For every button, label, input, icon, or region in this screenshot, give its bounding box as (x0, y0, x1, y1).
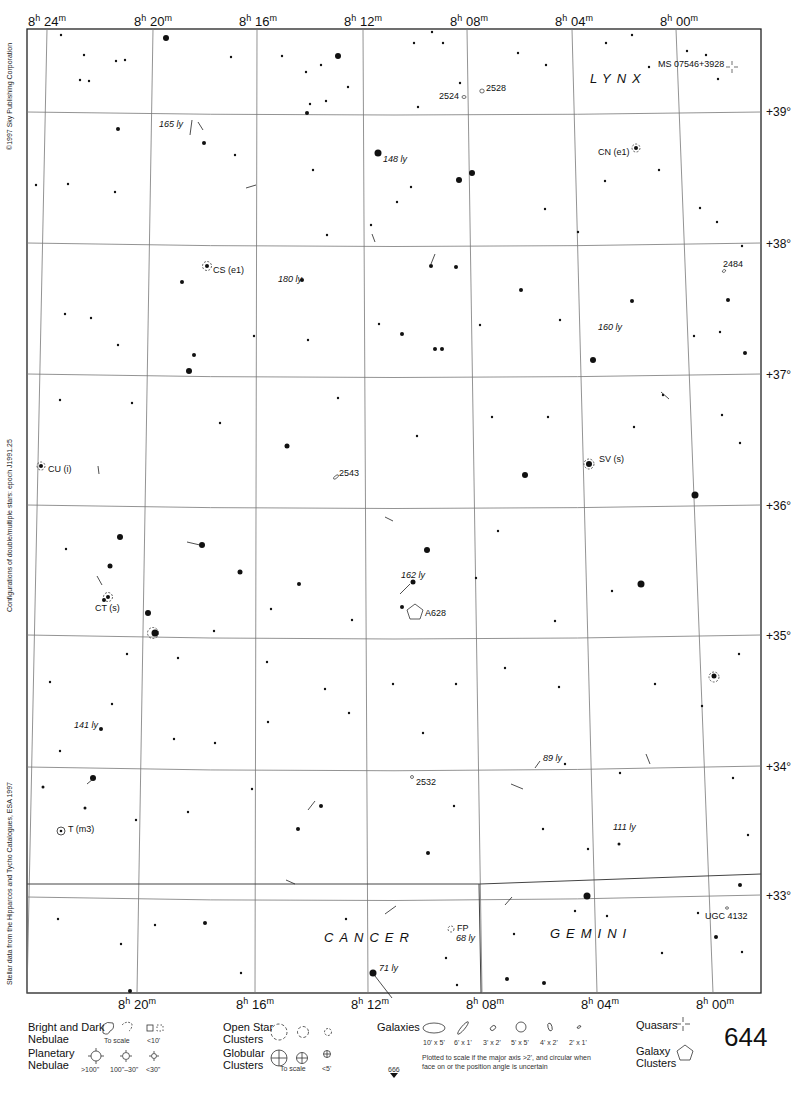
legend-galaxy-size: 6' x 1' (454, 1039, 472, 1046)
legend-p2: 100"–30" (110, 1066, 138, 1073)
legend-galaxies: Galaxies (377, 1021, 420, 1033)
ra-gridlines (27, 29, 713, 993)
constellation-gemini: GEMINI (550, 926, 632, 941)
galaxies (333, 89, 729, 909)
legend-globular-clusters: Globular Clusters (223, 1047, 265, 1071)
label-a628: A628 (425, 608, 446, 618)
legend-open-clusters: Open Star Clusters (223, 1021, 273, 1045)
legend-galaxy-note: Plotted to scale if the major axis >2', … (422, 1053, 602, 1071)
galaxy-ugc4132 (726, 907, 729, 909)
label-fp: FP (457, 923, 469, 933)
variable-star-rings (37, 144, 719, 932)
label-cu: CU (i) (48, 464, 72, 474)
galaxy-2484 (722, 269, 726, 273)
legend-planetary: Planetary Nebulae (28, 1047, 74, 1071)
legend-lt10: <10' (147, 1037, 160, 1044)
label-ms07546: MS 07546+3928 (658, 59, 724, 69)
label-ugc4132: UGC 4132 (705, 911, 748, 921)
galaxy-2524 (462, 96, 466, 99)
label-165ly: 165 ly (159, 119, 184, 129)
label-162ly: 162 ly (401, 570, 426, 580)
label-89ly: 89 ly (543, 753, 563, 763)
next-page-link[interactable]: 666 (388, 1066, 400, 1073)
map-frame (27, 29, 761, 993)
legend-nebulae: Bright and Dark Nebulae (28, 1021, 104, 1045)
legend-galaxy-size: 3' x 2' (483, 1039, 501, 1046)
label-71ly: 71 ly (379, 963, 399, 973)
label-t: T (m3) (68, 824, 94, 834)
label-cs: CS (e1) (213, 265, 244, 275)
stars (42, 35, 748, 993)
label-2484: 2484 (723, 259, 743, 269)
bright-nebula-icon (103, 1022, 114, 1034)
label-141ly: 141 ly (74, 720, 99, 730)
page-number: 644 (724, 1022, 767, 1053)
legend-glob-scale: To scale (280, 1065, 306, 1072)
label-sv: SV (s) (599, 454, 624, 464)
constellation-cancer: CANCER (324, 930, 415, 945)
legend-lt5: <5' (322, 1065, 331, 1072)
label-160ly: 160 ly (598, 322, 623, 332)
next-page-arrow-icon (390, 1073, 398, 1078)
galaxy-2532 (411, 776, 414, 779)
label-cn: CN (e1) (598, 147, 630, 157)
label-2543: 2543 (339, 468, 359, 478)
legend-galaxy-size: 10' x 5' (423, 1039, 445, 1046)
star-map[interactable]: LYNX CANCER GEMINI MS 07546+3928 2524 25… (0, 0, 810, 1093)
label-2524: 2524 (439, 91, 459, 101)
legend-galaxy-clusters: Galaxy Clusters (636, 1045, 676, 1069)
label-148ly: 148 ly (383, 154, 408, 164)
quasar-ms07546-icon (726, 61, 738, 73)
label-68ly: 68 ly (456, 933, 476, 943)
galaxy-cluster-a628 (407, 604, 423, 619)
label-ct: CT (s) (95, 603, 120, 613)
legend-p3: <30" (146, 1066, 160, 1073)
small-nebula-icon (147, 1025, 153, 1031)
legend-to-scale: To scale (104, 1037, 130, 1044)
constellation-lynx: LYNX (590, 71, 647, 86)
legend-galaxy-size: 5' x 5' (511, 1039, 529, 1046)
label-2528: 2528 (486, 83, 506, 93)
legend-p1: >100" (81, 1066, 99, 1073)
small-dark-nebula-icon (157, 1025, 163, 1031)
label-2532: 2532 (416, 777, 436, 787)
label-111ly: 111 ly (613, 822, 636, 832)
variable-stars (39, 146, 638, 599)
legend-galaxy-size: 2' x 1' (569, 1039, 587, 1046)
galaxy-2528 (480, 89, 484, 93)
dec-gridlines (27, 112, 761, 901)
t-star-symbol (57, 827, 65, 835)
legend-quasars: Quasars (636, 1019, 678, 1031)
label-180ly: 180 ly (278, 274, 303, 284)
motion-vectors (87, 120, 669, 998)
legend-galaxy-size: 4' x 2' (540, 1039, 558, 1046)
dark-nebula-icon (122, 1022, 132, 1031)
